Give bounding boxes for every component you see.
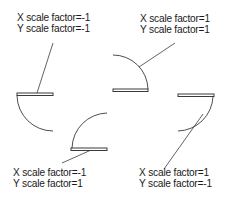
label-top-right: X scale factor=1 Y scale factor=1 — [140, 13, 210, 35]
y-scale-label: Y scale factor=1 — [13, 178, 86, 189]
door-panel — [17, 93, 53, 96]
leader-line — [139, 43, 175, 67]
door-block-bottom-left — [62, 113, 107, 163]
door-swing-arc — [17, 96, 53, 132]
label-top-left: X scale factor=-1 Y scale factor=-1 — [17, 12, 90, 34]
door-swing-arc — [178, 97, 213, 132]
door-block-top-right — [113, 43, 175, 92]
door-panel — [178, 94, 214, 97]
door-block-top-left — [17, 43, 53, 131]
leader-line — [164, 114, 203, 169]
label-bottom-left: X scale factor=-1 Y scale factor=1 — [13, 167, 86, 189]
label-bottom-right: X scale factor=1 Y scale factor=-1 — [139, 167, 212, 189]
leader-line — [62, 151, 90, 164]
door-panel — [71, 148, 107, 151]
door-panel — [113, 89, 148, 92]
y-scale-label: Y scale factor=-1 — [17, 23, 90, 34]
door-swing-arc — [72, 113, 107, 148]
door-block-bottom-right — [164, 94, 214, 169]
leader-line — [37, 43, 53, 93]
door-swing-arc — [113, 55, 148, 89]
y-scale-label: Y scale factor=1 — [140, 24, 210, 35]
y-scale-label: Y scale factor=-1 — [139, 178, 212, 189]
